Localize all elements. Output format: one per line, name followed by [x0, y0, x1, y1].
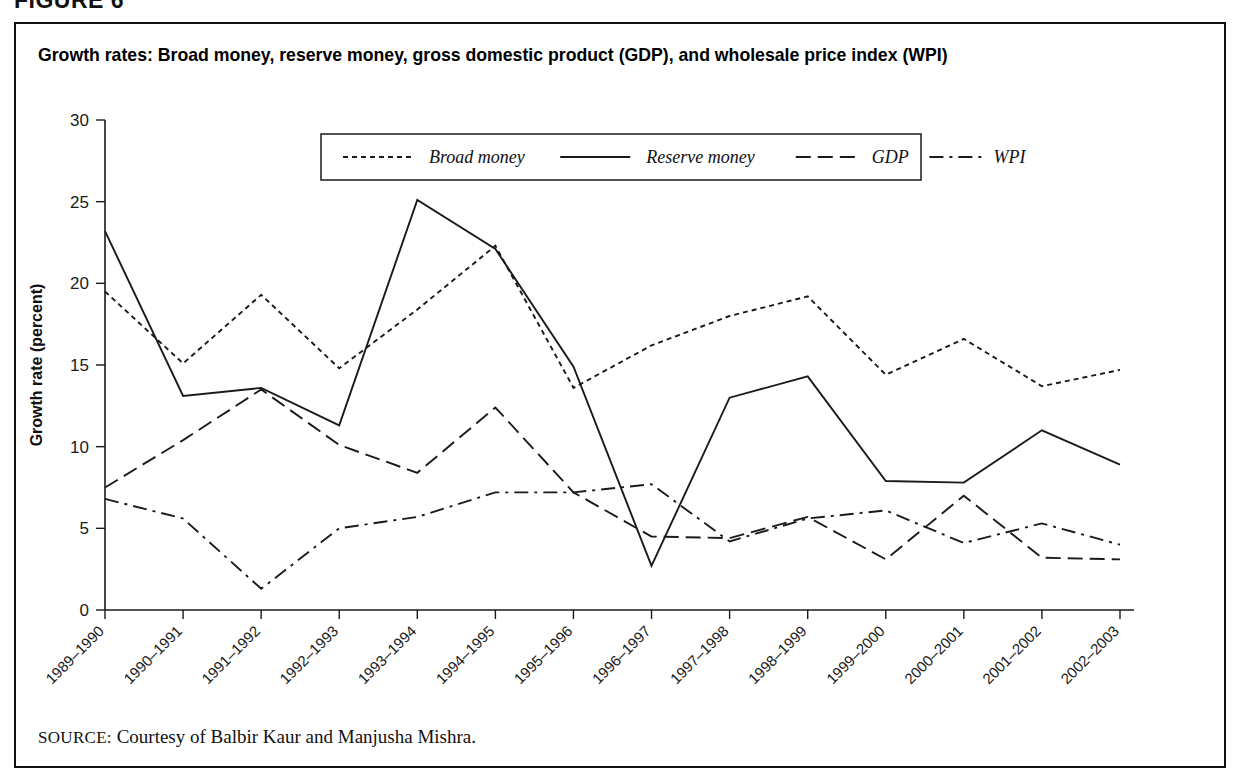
y-tick-label: 15 [70, 356, 89, 375]
x-tick-label: 1997–1998 [667, 622, 732, 687]
line-chart-plot: 051015202530Growth rate (percent) 1989–1… [16, 24, 1224, 766]
x-tick-label: 2000–2001 [901, 622, 966, 687]
source-label: SOURCE: [38, 728, 112, 747]
figure-frame: Growth rates: Broad money, reserve money… [14, 22, 1226, 768]
y-tick-label: 0 [80, 601, 89, 620]
x-tick-label: 1996–1997 [589, 622, 654, 687]
x-tick-label: 1999–2000 [823, 622, 888, 687]
figure-number-heading: FIGURE 6 [14, 0, 124, 14]
x-tick-label: 1993–1994 [354, 622, 419, 687]
y-tick-label: 20 [70, 274, 89, 293]
legend-label-wpi: WPI [993, 147, 1026, 167]
y-axis-title: Growth rate (percent) [28, 284, 45, 447]
x-axis: 1989–19901990–19911991–19921992–19931993… [42, 610, 1134, 687]
y-tick-label: 10 [70, 438, 89, 457]
legend-label-gdp: GDP [872, 147, 909, 167]
x-tick-label: 1998–1999 [745, 622, 810, 687]
x-tick-label: 2002–2003 [1057, 622, 1122, 687]
legend-label-reserve-money: Reserve money [645, 147, 754, 167]
y-axis: 051015202530Growth rate (percent) [28, 111, 105, 620]
y-tick-label: 5 [80, 519, 89, 538]
x-tick-label: 1992–1993 [276, 622, 341, 687]
source-text: Courtesy of Balbir Kaur and Manjusha Mis… [117, 726, 476, 747]
source-note: SOURCE: Courtesy of Balbir Kaur and Manj… [38, 726, 476, 748]
y-tick-label: 30 [70, 111, 89, 130]
x-tick-label: 1991–1992 [198, 622, 263, 687]
x-tick-label: 1995–1996 [510, 622, 575, 687]
y-tick-label: 25 [70, 193, 89, 212]
series-line-broad-money [105, 246, 1120, 388]
x-tick-label: 1989–1990 [42, 622, 107, 687]
x-tick-label: 2001–2002 [979, 622, 1044, 687]
legend-label-broad-money: Broad money [429, 147, 525, 167]
series-line-reserve-money [105, 200, 1120, 566]
chart-legend: Broad moneyReserve moneyGDPWPI [321, 134, 1026, 180]
series-line-gdp [105, 390, 1120, 560]
x-tick-label: 1990–1991 [120, 622, 185, 687]
x-tick-label: 1994–1995 [432, 622, 497, 687]
figure-container: FIGURE 6 Growth rates: Broad money, rese… [0, 0, 1242, 784]
series-group [105, 200, 1120, 589]
